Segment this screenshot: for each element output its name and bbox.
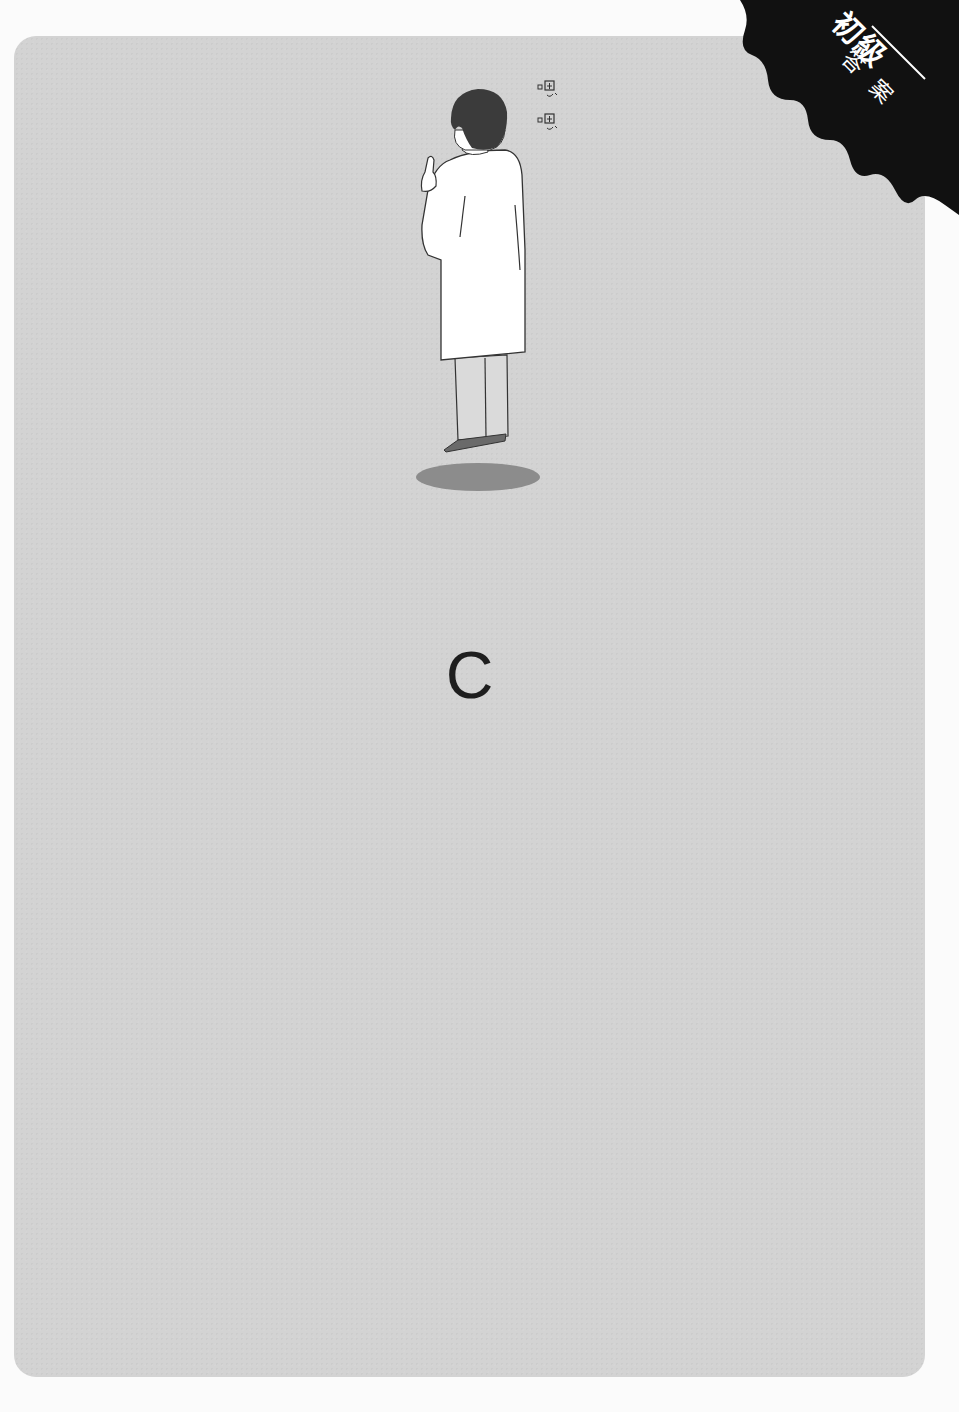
raised-hand [421,156,436,191]
thought-text [538,81,557,129]
doctor-illustration [400,80,580,500]
lab-coat [422,150,525,360]
floor-shadow [416,463,540,491]
legs [455,355,508,440]
answer-letter: C [0,635,939,715]
